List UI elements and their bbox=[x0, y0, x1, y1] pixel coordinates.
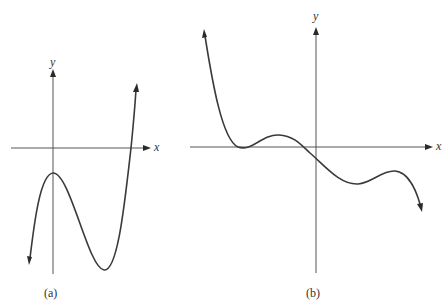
panel-a-curve bbox=[30, 90, 136, 270]
panel-b bbox=[190, 27, 433, 273]
panel-a-x-axis-arrow-icon bbox=[143, 145, 151, 151]
panel-b-curve-right-arrow-icon bbox=[417, 203, 423, 212]
panel-a-caption: (a) bbox=[44, 287, 57, 299]
panel-a-curve-right-arrow-icon bbox=[133, 83, 139, 92]
figure-canvas bbox=[0, 0, 447, 303]
panel-b-y-axis-arrow-icon bbox=[313, 27, 319, 35]
panel-a bbox=[11, 69, 151, 274]
panel-b-curve bbox=[205, 36, 420, 204]
panel-b-x-axis-label: x bbox=[436, 140, 441, 152]
panel-a-y-axis-label: y bbox=[50, 56, 55, 68]
panel-a-x-axis-label: x bbox=[154, 141, 159, 153]
panel-a-curve-left-arrow-icon bbox=[27, 256, 32, 265]
panel-b-curve-left-arrow-icon bbox=[202, 29, 207, 38]
panel-b-y-axis-label: y bbox=[313, 10, 318, 22]
panel-b-x-axis-arrow-icon bbox=[425, 144, 433, 150]
panel-a-y-axis-arrow-icon bbox=[50, 69, 56, 77]
panel-b-caption: (b) bbox=[306, 287, 320, 299]
